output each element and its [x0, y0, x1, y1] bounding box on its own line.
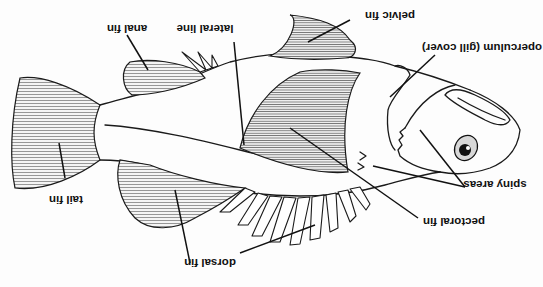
- spiny-area-marks: [358, 152, 366, 170]
- label-tail-fin: tail fin: [49, 194, 83, 206]
- leader-operculum: [390, 55, 435, 97]
- leader-pectoral-fin: [290, 128, 418, 218]
- label-anal-fin: anal fin: [107, 23, 147, 35]
- head-inner: [405, 85, 455, 128]
- label-operculum: operculum (gill cover): [422, 42, 542, 54]
- tail-fin: [12, 77, 100, 188]
- label-dorsal-fin: dorsal fin: [184, 257, 236, 269]
- fish-drawing: anal fin lateral line pelvic fin opercul…: [0, 0, 543, 287]
- label-spiny-areas: spiny areas: [463, 179, 526, 191]
- operculum: [387, 65, 410, 150]
- label-pelvic-fin: pelvic fin: [365, 10, 415, 22]
- fish-anatomy-diagram: anal fin lateral line pelvic fin opercul…: [0, 0, 543, 287]
- eye-pupil: [459, 144, 471, 156]
- pelvic-fin: [270, 15, 355, 59]
- label-lateral-line: lateral line: [177, 23, 234, 35]
- head-outline: [440, 90, 520, 174]
- label-pectoral-fin: pectoral fin: [423, 216, 485, 228]
- pectoral-fin: [240, 70, 360, 173]
- eye-highlight: [466, 146, 470, 150]
- anal-fin: [123, 60, 205, 95]
- leader-lateral-line: [234, 42, 244, 145]
- mouth: [445, 90, 510, 125]
- gill-edge-spiny: [398, 128, 440, 172]
